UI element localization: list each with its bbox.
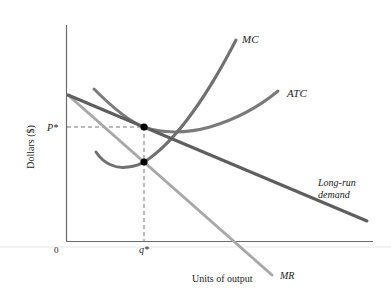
demand-label-line2: demand: [318, 189, 351, 200]
atc-label: ATC: [286, 87, 307, 99]
mc-label: MC: [241, 33, 259, 45]
price-equilibrium-point: [140, 123, 147, 130]
y-axis-label: Dollars ($): [25, 125, 37, 169]
demand-label-line1: Long-run: [317, 177, 356, 188]
x-axis-label: Units of output: [192, 273, 253, 284]
demand-curve: [68, 95, 367, 221]
economics-diagram: MC ATC Long-run demand MR P* q* 0 Units …: [0, 0, 391, 301]
mc-curve: [96, 40, 236, 167]
mr-curve: [68, 95, 272, 275]
mr-label: MR: [279, 270, 294, 281]
price-label: P*: [46, 122, 58, 133]
quantity-label: q*: [139, 244, 149, 255]
atc-curve: [94, 89, 278, 132]
mc-mr-intersection-point: [140, 158, 147, 165]
origin-label: 0: [54, 245, 59, 255]
